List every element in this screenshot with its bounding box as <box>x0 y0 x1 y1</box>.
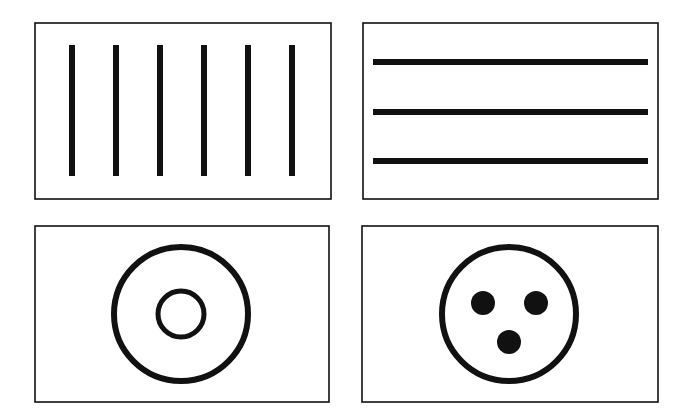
panel-frame <box>362 226 658 402</box>
panel-frame <box>35 226 329 402</box>
panel-concentric-circles <box>35 226 329 402</box>
filled-dot <box>524 291 548 315</box>
ring-circle <box>114 247 248 381</box>
vertical-bar <box>113 45 119 176</box>
ring-circle <box>442 247 576 381</box>
horizontal-bar <box>373 158 648 164</box>
horizontal-bar <box>373 59 648 65</box>
vertical-bar <box>157 45 163 176</box>
panel-frame <box>35 23 331 199</box>
filled-dot <box>497 330 521 354</box>
vertical-bar <box>289 45 295 176</box>
horizontal-bar <box>373 109 648 115</box>
panel-circle-with-dots <box>362 226 658 402</box>
panel-horizontal-lines <box>363 23 658 199</box>
ring-circle <box>158 291 204 337</box>
diagram-canvas <box>0 0 680 416</box>
filled-dot <box>471 291 495 315</box>
vertical-bar <box>69 45 75 176</box>
vertical-bar <box>245 45 251 176</box>
panel-vertical-lines <box>35 23 331 199</box>
vertical-bar <box>201 45 207 176</box>
